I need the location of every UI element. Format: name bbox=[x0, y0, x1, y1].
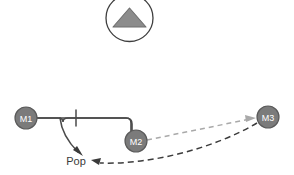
edge-m1-to-m2-run bbox=[37, 118, 132, 131]
edge-m3-to-pop bbox=[100, 123, 257, 163]
diagram-svg: M1 M2 M3 Pop bbox=[0, 0, 294, 175]
node-m1[interactable]: M1 bbox=[15, 107, 37, 129]
edge-m2-to-m3 bbox=[147, 119, 250, 140]
pop-label: Pop bbox=[66, 155, 86, 167]
node-m1-label: M1 bbox=[20, 114, 33, 124]
node-m3-label: M3 bbox=[262, 113, 275, 123]
arrowhead-m2-to-m3 bbox=[245, 115, 256, 122]
node-m3[interactable]: M3 bbox=[257, 106, 279, 128]
diagram-canvas: M1 M2 M3 Pop bbox=[0, 0, 294, 175]
up-arrow-button[interactable] bbox=[106, 0, 153, 42]
edge-m1-to-m2 bbox=[37, 118, 131, 131]
node-m2[interactable]: M2 bbox=[125, 130, 147, 152]
node-m2-label: M2 bbox=[130, 137, 143, 147]
arrowhead-m3-to-pop bbox=[91, 158, 101, 165]
